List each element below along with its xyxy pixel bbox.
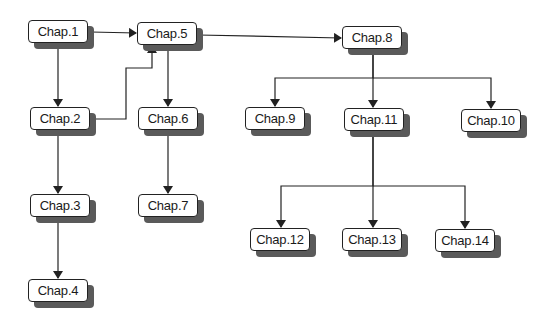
node-label: Chap.8 <box>342 26 402 49</box>
node-chap-10: Chap.10 <box>461 109 521 132</box>
node-chap-12: Chap.12 <box>250 228 310 251</box>
edge-arrow <box>91 32 136 33</box>
node-chap-3: Chap.3 <box>30 194 90 217</box>
node-label: Chap.4 <box>28 279 88 302</box>
node-chap-1: Chap.1 <box>28 20 88 43</box>
node-chap-9: Chap.9 <box>245 107 305 130</box>
edge-arrow <box>373 186 465 228</box>
node-label: Chap.7 <box>138 194 198 217</box>
node-label: Chap.14 <box>435 229 495 252</box>
node-label: Chap.3 <box>30 194 90 217</box>
node-label: Chap.11 <box>344 108 404 131</box>
node-label: Chap.6 <box>138 107 198 130</box>
node-label: Chap.9 <box>245 107 305 130</box>
node-label: Chap.10 <box>461 109 521 132</box>
node-chap-8: Chap.8 <box>342 26 402 49</box>
node-chap-4: Chap.4 <box>28 279 88 302</box>
node-label: Chap.12 <box>250 228 310 251</box>
node-chap-5: Chap.5 <box>137 22 197 45</box>
node-chap-6: Chap.6 <box>138 107 198 130</box>
node-chap-7: Chap.7 <box>138 194 198 217</box>
node-chap-2: Chap.2 <box>30 107 90 130</box>
edge-arrow <box>275 50 373 106</box>
node-chap-14: Chap.14 <box>435 229 495 252</box>
edge-arrow <box>281 132 373 227</box>
node-label: Chap.13 <box>342 228 402 251</box>
node-label: Chap.1 <box>28 20 88 43</box>
edge-arrow <box>198 35 341 38</box>
node-chap-11: Chap.11 <box>344 108 404 131</box>
node-label: Chap.2 <box>30 107 90 130</box>
node-chap-13: Chap.13 <box>342 228 402 251</box>
node-label: Chap.5 <box>137 22 197 45</box>
diagram-canvas: Chap.1Chap.5Chap.8Chap.2Chap.6Chap.9Chap… <box>0 0 555 326</box>
edge-arrow <box>373 78 491 108</box>
